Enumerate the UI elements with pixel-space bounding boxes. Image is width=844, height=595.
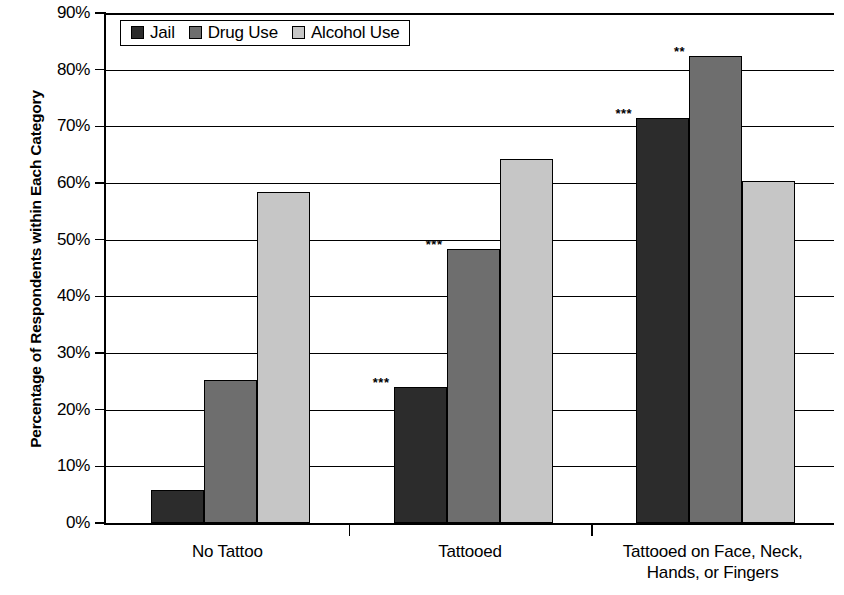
bar-jail-group-3: [636, 118, 689, 523]
legend-item-jail[interactable]: Jail: [131, 23, 175, 43]
y-axis-tick-label: 60%: [28, 173, 90, 193]
y-axis-tick-label: 0%: [28, 513, 90, 533]
bar-alcohol-use-group-1: [257, 192, 310, 524]
legend-label: Alcohol Use: [311, 23, 400, 43]
significance-marker: **: [674, 45, 685, 58]
x-axis-category-label-line: Hands, or Fingers: [588, 562, 838, 583]
y-axis-tick-label: 50%: [28, 230, 90, 250]
y-axis-tick-label: 40%: [28, 286, 90, 306]
bar-drug-use-group-1: [204, 380, 257, 523]
y-axis-tick-mark: [95, 239, 106, 241]
y-axis-tick-mark: [95, 69, 106, 71]
y-axis-tick-mark: [95, 352, 106, 354]
bar-drug-use-group-3: [689, 56, 742, 524]
legend-swatch-icon: [131, 26, 144, 39]
gridline: [106, 523, 834, 524]
gridline: [106, 13, 834, 15]
y-axis-tick-labels: 0%10%20%30%40%50%60%70%80%90%: [28, 0, 90, 540]
y-axis-tick-label: 20%: [28, 400, 90, 420]
x-axis-category-label: Tattooed on Face, Neck,Hands, or Fingers: [588, 541, 838, 584]
y-axis-tick-mark: [95, 182, 106, 184]
bar-alcohol-use-group-3: [742, 181, 795, 523]
plot-area: No Tattoo******Tattooed*****Tattooed on …: [104, 13, 834, 525]
y-axis-tick-mark: [95, 522, 106, 524]
y-axis-tick-mark: [95, 409, 106, 411]
legend-swatch-icon: [189, 26, 202, 39]
significance-marker: ***: [615, 107, 632, 120]
y-axis-tick-label: 90%: [28, 3, 90, 23]
legend-label: Jail: [150, 23, 175, 43]
y-axis-tick-mark: [95, 296, 106, 298]
legend-item-drug-use[interactable]: Drug Use: [189, 23, 278, 43]
significance-marker: ***: [426, 238, 443, 251]
y-axis-tick-label: 30%: [28, 343, 90, 363]
x-axis-category-label: No Tattoo: [102, 541, 352, 562]
legend-swatch-icon: [292, 26, 305, 39]
bar-jail-group-1: [151, 490, 204, 523]
x-axis-tick-mark: [349, 523, 351, 536]
plot-inner: No Tattoo******Tattooed*****Tattooed on …: [106, 13, 834, 523]
y-axis-tick-label: 10%: [28, 456, 90, 476]
legend-label: Drug Use: [208, 23, 278, 43]
y-axis-tick-mark: [95, 466, 106, 468]
chart-legend: JailDrug UseAlcohol Use: [120, 20, 410, 46]
y-axis-tick-mark: [95, 126, 106, 128]
x-axis-category-label-line: Tattooed on Face, Neck,: [588, 541, 838, 562]
x-axis-category-label-line: Tattooed: [345, 541, 595, 562]
x-axis-category-label-line: No Tattoo: [102, 541, 352, 562]
y-axis-tick-label: 80%: [28, 60, 90, 80]
bar-chart-figure: Percentage of Respondents within Each Ca…: [0, 0, 844, 595]
bar-drug-use-group-2: [447, 249, 500, 523]
y-axis-tick-mark: [95, 12, 106, 14]
legend-item-alcohol-use[interactable]: Alcohol Use: [292, 23, 400, 43]
bar-jail-group-2: [394, 387, 447, 523]
x-axis-category-label: Tattooed: [345, 541, 595, 562]
x-axis-tick-mark: [591, 523, 593, 536]
significance-marker: ***: [373, 376, 390, 389]
bar-alcohol-use-group-2: [500, 159, 553, 523]
y-axis-tick-label: 70%: [28, 116, 90, 136]
